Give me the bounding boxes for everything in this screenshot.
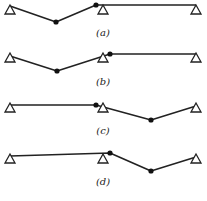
panel-label: (c) (96, 125, 110, 136)
panel-c: (c) (5, 102, 201, 136)
collapse-mechanism-diagram: (a)(b)(c)(d) (0, 0, 207, 201)
plastic-hinge-icon (148, 168, 153, 173)
plastic-hinge-icon (93, 2, 98, 7)
pin-support-icon (98, 5, 108, 14)
plastic-hinge-icon (107, 51, 112, 56)
plastic-hinge-icon (54, 68, 59, 73)
plastic-hinge-icon (93, 102, 98, 107)
pin-support-icon (98, 154, 108, 163)
plastic-hinge-icon (53, 19, 58, 24)
pin-support-icon (191, 5, 201, 14)
panel-label: (a) (96, 27, 110, 38)
plastic-hinge-icon (148, 117, 153, 122)
pin-support-icon (5, 5, 15, 14)
panel-b: (b) (5, 51, 201, 87)
panel-label: (d) (96, 176, 110, 187)
panel-d: (d) (5, 150, 201, 187)
panel-a: (a) (5, 2, 201, 38)
panel-label: (b) (96, 76, 110, 87)
plastic-hinge-icon (107, 150, 112, 155)
